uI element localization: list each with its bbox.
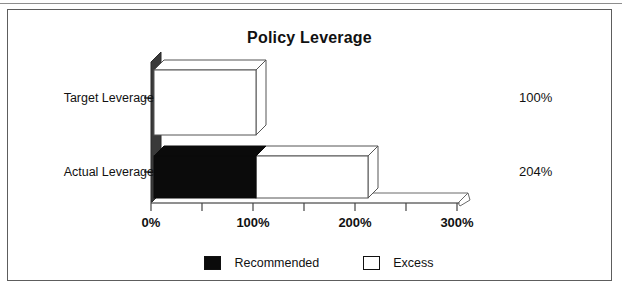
chart-legend: Recommended Excess (8, 256, 622, 270)
bar-actual-excess-front (256, 156, 368, 198)
bar-actual-recommended-top (154, 146, 266, 156)
x-tick-label-200: 200% (338, 215, 371, 230)
x-axis-ticks (151, 203, 457, 211)
bar-actual-recommended-front (154, 156, 256, 198)
scan-artifact-line (0, 0, 622, 4)
value-label-target-leverage-text: 100% (519, 90, 583, 105)
bar-actual-excess-side (368, 146, 378, 198)
bar-target-leverage (154, 60, 266, 135)
chart-screenshot: Policy Leverage (0, 0, 622, 289)
legend-label-excess: Excess (393, 256, 433, 270)
legend-label-recommended: Recommended (234, 256, 319, 270)
bar-actual-excess-top (256, 146, 378, 156)
bar-target-excess-side (256, 60, 266, 135)
legend-swatch-excess-icon (363, 256, 380, 270)
x-tick-label-0: 0% (142, 215, 161, 230)
chart-frame: Policy Leverage (7, 9, 612, 281)
plot-area (8, 10, 613, 282)
x-tick-label-300: 300% (440, 215, 473, 230)
y-axis-label-target-leverage-text: Target Leverage (64, 91, 154, 105)
x-tick-label-100: 100% (236, 215, 269, 230)
bar-actual-leverage (154, 146, 378, 198)
legend-swatch-recommended-icon (204, 256, 221, 270)
value-label-actual-leverage-text: 204% (519, 164, 583, 179)
bar-target-excess-top (154, 60, 266, 70)
legend-item-recommended: Recommended (204, 256, 319, 270)
legend-item-excess: Excess (363, 256, 433, 270)
bar-target-excess-front (154, 70, 256, 135)
y-axis-label-actual-leverage-text: Actual Leverage (64, 165, 154, 179)
